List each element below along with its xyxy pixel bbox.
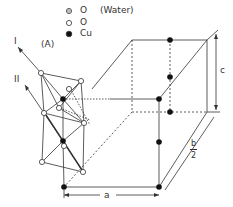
dimension-label-b-denominator: 2 bbox=[191, 152, 196, 160]
legend-note-water: (Water) bbox=[100, 6, 134, 15]
axis-label-i: I bbox=[14, 37, 17, 46]
dimension-fraction-bar bbox=[190, 149, 197, 150]
dimension-label-a: a bbox=[104, 191, 110, 200]
legend-label-o-water: O bbox=[80, 6, 87, 15]
legend-symbols bbox=[66, 8, 72, 36]
legend-label-cu: Cu bbox=[80, 29, 92, 38]
group-label-a: (A) bbox=[41, 40, 54, 49]
dimension-label-b-numerator: b bbox=[191, 140, 196, 148]
axis-label-ii: II bbox=[14, 75, 19, 84]
legend-label-o: O bbox=[80, 18, 87, 27]
dimension-label-c: c bbox=[220, 66, 225, 75]
crystal-structure-diagram bbox=[0, 0, 233, 207]
